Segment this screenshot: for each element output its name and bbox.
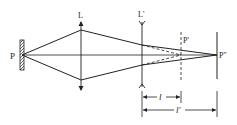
label-l: l (159, 92, 162, 102)
label-l-prime: l' (176, 105, 182, 115)
label-P-double-prime: P'' (219, 51, 227, 60)
dimension-l-prime: l' (143, 105, 216, 115)
lens-L-top-arrow-icon (79, 21, 84, 26)
label-P-prime: P' (183, 36, 189, 45)
lens-L-bottom-arrow-icon (79, 86, 84, 91)
lens-L-prime (139, 21, 145, 88)
lens-L (79, 21, 84, 91)
optics-diagram: P L L' (0, 0, 237, 125)
label-L: L (78, 11, 83, 20)
dimension-l: l (143, 92, 180, 102)
label-L-prime: L' (138, 10, 145, 19)
label-P: P (10, 51, 15, 61)
